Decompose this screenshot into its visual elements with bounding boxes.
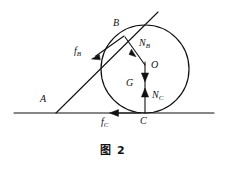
label-point-a: A <box>40 94 46 104</box>
physics-figure: A B C O fB fC NB NC G 图 2 <box>0 0 226 173</box>
label-point-b: B <box>113 18 119 28</box>
label-force-g: G <box>126 78 133 88</box>
vector-nc <box>141 88 148 97</box>
label-center-o: O <box>151 60 158 70</box>
vector-fb <box>92 36 125 60</box>
vector-fc <box>110 110 141 117</box>
label-force-nb: NB <box>139 38 150 48</box>
label-force-fb: fB <box>74 46 81 56</box>
label-point-c: C <box>140 116 147 126</box>
figure-caption: 图 2 <box>0 141 226 157</box>
label-force-fc: fC <box>101 117 108 127</box>
label-force-nc: NC <box>152 90 163 100</box>
